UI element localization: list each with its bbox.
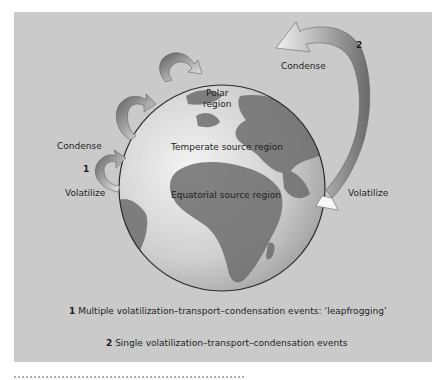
- legend-text-1: Multiple volatilization–transport–conden…: [78, 306, 387, 316]
- condense-label-1: Condense: [57, 141, 102, 152]
- temperate-region-label: Temperate source region: [171, 142, 283, 153]
- legend-item-1: 1 Multiple volatilization–transport–cond…: [69, 306, 387, 316]
- equatorial-region-label: Equatorial source region: [171, 190, 281, 201]
- condense-label-2: Condense: [281, 61, 326, 72]
- caption-fragment: [14, 376, 244, 380]
- polar-region-label: Polar region: [203, 88, 231, 110]
- volatilize-label-1: Volatilize: [65, 188, 105, 199]
- process-2-number: 2: [356, 40, 362, 50]
- polar-label-line1: Polar: [203, 88, 231, 99]
- volatilize-label-2: Volatilize: [348, 188, 388, 199]
- legend-item-2: 2 Single volatilization–transport–conden…: [106, 338, 347, 348]
- polar-label-line2: region: [203, 99, 231, 110]
- legend-number-2: 2: [106, 338, 112, 348]
- legend-number-1: 1: [69, 306, 75, 316]
- legend-text-2: Single volatilization–transport–condensa…: [115, 338, 347, 348]
- process-1-number: 1: [83, 164, 89, 174]
- figure-caption-cutoff: [14, 374, 244, 380]
- globe: [118, 85, 330, 291]
